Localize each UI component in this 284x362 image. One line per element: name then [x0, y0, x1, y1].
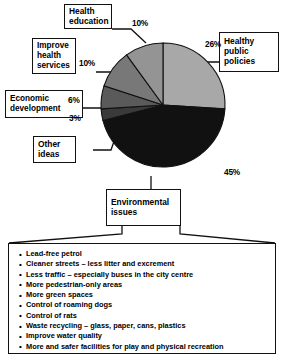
list-item-label: More and safer facilities for play and p… [26, 343, 224, 351]
percent-economic-development: 6% [68, 95, 80, 105]
callout-other-ideas[interactable]: Otherideas [33, 136, 76, 163]
callout-improve-health-services-label: Improvehealthservices [33, 41, 74, 70]
list-item-label: Less traffic – especially buses in the c… [26, 271, 193, 279]
list-item-label: Control of roaming dogs [26, 301, 112, 309]
callout-environmental-issues[interactable]: Environmentalissues [106, 189, 181, 226]
callout-environmental-issues-label: Environmentalissues [107, 198, 173, 218]
percent-environmental-issues: 45% [224, 167, 240, 177]
callout-health-education[interactable]: Healtheducation [64, 4, 112, 29]
bullet-icon: • [19, 332, 26, 341]
list-item-label: Waste recycling – glass, paper, cans, pl… [26, 322, 186, 330]
percent-health-education: 10% [132, 18, 148, 28]
percent-other-ideas: 3% [69, 113, 81, 123]
list-item-label: More pedestrian-only areas [26, 281, 122, 289]
bullet-icon: • [19, 322, 26, 331]
bullet-icon: • [19, 301, 26, 310]
list-item-label: Control of rats [26, 312, 77, 320]
bullet-icon: • [19, 260, 26, 269]
bullet-icon: • [19, 271, 26, 280]
bullet-icon: • [19, 312, 26, 321]
callout-health-education-label: Healtheducation [65, 7, 113, 27]
callout-other-ideas-label: Otherideas [34, 140, 64, 160]
bullet-icon: • [19, 343, 26, 352]
list-item-label: More green spaces [26, 291, 93, 299]
callout-healthy-public-policies[interactable]: Healthypublicpolicies [219, 32, 279, 72]
list-item: •More and safer facilities for play and … [9, 343, 275, 353]
figure-root: Healtheducation Improvehealthservices Ec… [0, 0, 284, 362]
list-item-label: Cleaner streets – less litter and excrem… [26, 260, 174, 268]
callout-improve-health-services[interactable]: Improvehealthservices [32, 38, 76, 74]
list-item-label: Improve water quality [26, 332, 102, 340]
percent-healthy-public-policies: 26% [205, 39, 221, 49]
list-item-label: Lead-free petrol [26, 250, 82, 258]
pie-slice-healthy-public-policies[interactable] [163, 43, 225, 109]
callout-healthy-public-policies-label: Healthypublicpolicies [220, 37, 259, 67]
bullet-icon: • [19, 250, 26, 259]
percent-improve-health-services: 10% [79, 58, 95, 68]
callout-economic-development-label: Economicdevelopment [6, 94, 65, 113]
bullet-icon: • [19, 291, 26, 300]
bullet-icon: • [19, 281, 26, 290]
environmental-issues-list: •Lead-free petrol•Cleaner streets – less… [8, 243, 276, 354]
